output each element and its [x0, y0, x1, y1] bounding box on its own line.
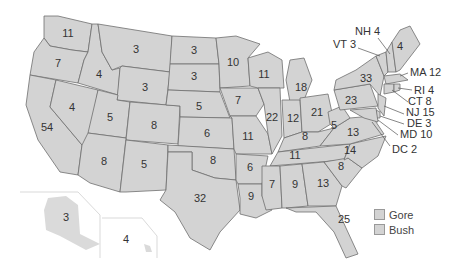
label-sd: 3	[191, 70, 197, 82]
state-hi[interactable]	[144, 244, 152, 252]
label-co: 8	[151, 119, 157, 131]
label-mt: 3	[133, 43, 139, 55]
label-tn: 11	[289, 149, 300, 161]
label-ia: 7	[235, 94, 241, 106]
state-ak[interactable]	[44, 196, 100, 250]
label-in: 12	[287, 112, 299, 124]
label-nd: 3	[191, 44, 197, 56]
label-mi: 18	[295, 81, 307, 93]
swatch-icon	[374, 209, 385, 220]
label-nc: 14	[344, 144, 356, 156]
state-ma[interactable]	[384, 74, 408, 84]
label-wv: 5	[331, 119, 337, 131]
label-nm: 5	[141, 158, 147, 170]
label-ok: 8	[210, 154, 216, 166]
label-wy: 3	[142, 81, 148, 93]
label-fl: 25	[338, 213, 350, 225]
label-nv: 4	[69, 101, 75, 113]
label-oh: 21	[311, 106, 323, 118]
legend-label: Gore	[389, 209, 413, 221]
label-wa: 11	[62, 27, 73, 39]
label-la: 9	[248, 190, 254, 202]
legend-item-bush: Bush	[374, 222, 414, 237]
callout-vt: VT 3	[333, 38, 356, 50]
label-il: 22	[266, 111, 278, 123]
label-pa: 23	[345, 94, 357, 106]
legend-label: Bush	[389, 224, 414, 236]
label-ga: 13	[317, 177, 329, 189]
label-ms: 7	[269, 178, 275, 190]
state-ct[interactable]	[384, 84, 394, 94]
callout-nh: NH 4	[355, 25, 380, 37]
label-ut: 5	[107, 111, 113, 123]
label-hi: 4	[123, 233, 129, 245]
label-id: 4	[96, 68, 102, 80]
label-va: 13	[347, 126, 359, 138]
label-tx: 32	[194, 192, 206, 204]
callout-ma: MA 12	[410, 66, 441, 78]
label-al: 9	[292, 178, 298, 190]
label-ar: 6	[247, 161, 253, 173]
label-mo: 11	[242, 130, 253, 142]
legend: Gore Bush	[374, 207, 414, 237]
label-wi: 11	[258, 68, 269, 80]
label-mn: 10	[227, 56, 239, 68]
callout-dc: DC 2	[392, 143, 417, 155]
label-sc: 8	[338, 160, 344, 172]
label-ky: 8	[302, 130, 308, 142]
label-or: 7	[55, 57, 61, 69]
label-ks: 6	[204, 127, 210, 139]
callout-md: MD 10	[400, 128, 432, 140]
label-az: 8	[101, 155, 107, 167]
label-ak: 3	[63, 211, 69, 223]
legend-item-gore: Gore	[374, 207, 414, 222]
label-ne: 5	[196, 100, 202, 112]
label-ny: 33	[360, 72, 372, 84]
swatch-icon	[374, 224, 385, 235]
label-me: 4	[397, 40, 403, 52]
label-ca: 54	[41, 121, 53, 133]
